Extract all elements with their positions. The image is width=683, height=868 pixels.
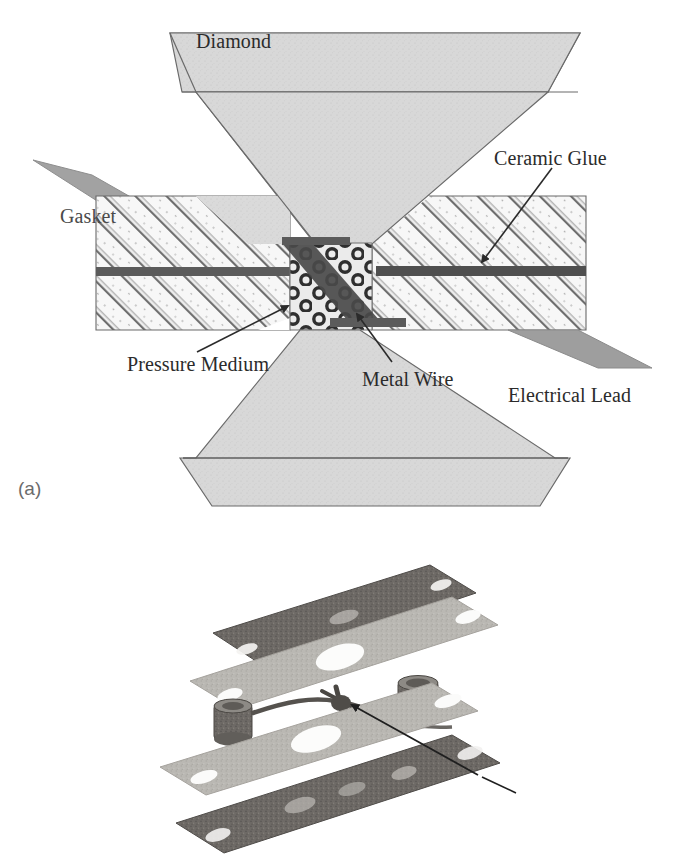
panel-b-drawing — [0, 505, 683, 868]
label-diamond: Diamond — [196, 30, 271, 53]
supporting-ring-left — [214, 699, 252, 746]
panel-tag-a: (a) — [18, 478, 41, 500]
electrical-leads-leader-tail — [482, 777, 516, 793]
panel-a-drawing — [0, 0, 683, 520]
label-electrical-lead: Electrical Lead — [508, 384, 631, 407]
left-gasket — [96, 196, 290, 330]
panel-b-photograph: Metallic Gasket Supporting Ring Mica Ele… — [0, 505, 683, 868]
label-pressure-medium: Pressure Medium — [127, 353, 269, 376]
label-gasket: Gasket — [60, 205, 116, 228]
label-metal-wire: Metal Wire — [362, 368, 453, 391]
lower-right-electrical-lead — [508, 330, 652, 368]
figure-root: Diamond Ceramic Glue Gasket Pressure Med… — [0, 0, 683, 868]
sample-chamber-pressure-medium — [282, 243, 380, 330]
label-ceramic-glue: Ceramic Glue — [494, 147, 607, 170]
panel-a-schematic: Diamond Ceramic Glue Gasket Pressure Med… — [0, 0, 683, 520]
